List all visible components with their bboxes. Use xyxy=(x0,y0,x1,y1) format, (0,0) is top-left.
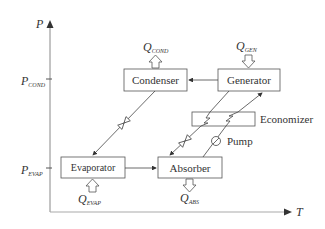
q-abs-label: QABS xyxy=(180,191,199,205)
generator-label: Generator xyxy=(227,74,271,86)
q-cond-label: QCOND xyxy=(143,40,169,54)
y-axis-label: P xyxy=(35,17,44,31)
absorption-cycle-diagram: P T PCOND PEVAP Condenser Generator Econ… xyxy=(0,0,325,229)
absorber-label: Absorber xyxy=(170,162,211,174)
solution-valve-icon xyxy=(179,135,192,148)
q-evap-label: QEVAP xyxy=(78,192,101,206)
q-cond-arrow-icon xyxy=(149,55,162,68)
pump-icon xyxy=(212,137,221,146)
p-cond-label: PCOND xyxy=(20,74,46,88)
y-axis-arrow-icon xyxy=(47,20,54,28)
economizer-box: Economizer xyxy=(192,112,313,126)
p-evap-label: PEVAP xyxy=(20,163,43,177)
x-axis-arrow-icon xyxy=(284,209,292,216)
refrigerant-valve-icon xyxy=(118,117,131,130)
expansion-valves xyxy=(118,117,192,148)
evaporator-label: Evaporator xyxy=(71,162,116,173)
evaporator-box: Evaporator xyxy=(61,157,125,178)
q-gen-arrow-icon xyxy=(242,55,255,68)
generator-box: Generator xyxy=(218,69,280,91)
absorber-box: Absorber xyxy=(158,157,222,178)
condenser-box: Condenser xyxy=(124,69,187,91)
pump-label: Pump xyxy=(227,135,253,147)
x-axis-label: T xyxy=(296,205,304,219)
econ-to-gen-arrow xyxy=(238,93,262,112)
condenser-label: Condenser xyxy=(132,74,179,86)
economizer-label: Economizer xyxy=(260,113,313,125)
q-gen-label: QGEN xyxy=(236,39,258,53)
q-evap-arrow-icon xyxy=(86,179,99,192)
gen-to-econ-line xyxy=(210,91,229,112)
